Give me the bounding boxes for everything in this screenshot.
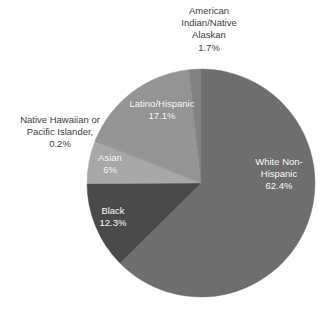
slice-label-native-hawaiian-pacific-islander: Native Hawaiian or Pacific Islander, 0.2… [2, 114, 118, 151]
pie-chart-figure: American Indian/Native Alaskan 1.7% Nati… [0, 0, 335, 316]
slice-label-asian: Asian 6% [82, 152, 138, 176]
slice-label-black: Black 12.3% [82, 205, 144, 229]
slice-label-american-indian-native-alaskan: American Indian/Native Alaskan 1.7% [150, 5, 268, 54]
slice-label-white-non-hispanic: White Non- Hispanic 62.4% [240, 156, 318, 193]
slice-label-latino-hispanic: Latino/Hispanic 17.1% [116, 98, 208, 122]
